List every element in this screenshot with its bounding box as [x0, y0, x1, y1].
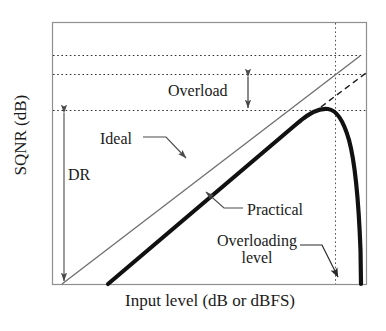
annotation-overload: Overload: [168, 82, 228, 99]
annotation-overloading-level-line2: level: [203, 249, 311, 266]
curve-practical-extension-dashed: [297, 73, 366, 125]
annotation-overloading-level-line1: Overloading: [217, 232, 297, 249]
x-axis-label: Input level (dB or dBFS): [52, 292, 368, 310]
annotation-practical: Practical: [247, 201, 303, 218]
plot-canvas: [0, 0, 386, 331]
ideal-leader-line: [143, 137, 186, 158]
annotation-dynamic-range: DR: [68, 166, 90, 183]
annotation-ideal: Ideal: [100, 130, 132, 147]
annotation-overloading-level: Overloading level: [203, 232, 311, 267]
sqnr-vs-input-level-figure: SQNR (dB) Input level (dB or dBFS) Overl…: [0, 0, 386, 331]
y-axis-label: SQNR (dB): [12, 70, 30, 200]
